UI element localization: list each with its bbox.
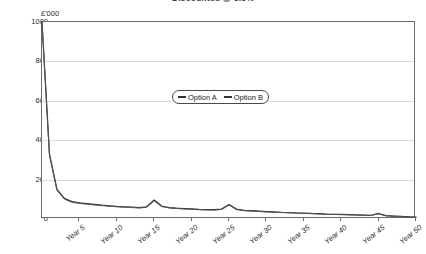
legend-entry[interactable]: Option B <box>224 93 263 102</box>
x-axis-tick <box>228 218 229 221</box>
series-line <box>42 22 416 217</box>
x-axis-tick <box>415 218 416 221</box>
legend-label: Option B <box>234 93 263 102</box>
x-axis-tick-label: Year 20 <box>173 223 199 246</box>
x-axis-tick-label: Year 35 <box>285 223 311 246</box>
legend-entry[interactable]: Option A <box>178 93 217 102</box>
series-line <box>42 22 416 217</box>
x-axis-tick <box>153 218 154 221</box>
chart-title: Discounted @ 3.5% <box>0 0 426 2</box>
x-axis-tick-label: Year 30 <box>248 223 274 246</box>
x-axis-tick <box>116 218 117 221</box>
chart-container: Discounted @ 3.5% £'000 0200400600800100… <box>0 0 426 254</box>
chart-legend: Option AOption B <box>172 90 269 104</box>
x-axis-tick-label: Year 15 <box>136 223 162 246</box>
x-axis-tick <box>303 218 304 221</box>
series-lines <box>42 22 416 219</box>
x-axis-tick <box>340 218 341 221</box>
plot-area <box>41 21 415 218</box>
legend-line-icon <box>224 96 232 98</box>
x-axis-tick-label: Year 50 <box>398 223 424 246</box>
x-axis-tick <box>78 218 79 221</box>
x-axis-tick-label: Year 45 <box>360 223 386 246</box>
x-axis-tick-label: Year 5 <box>64 223 87 243</box>
x-axis-tick-label: Year 40 <box>323 223 349 246</box>
legend-line-icon <box>178 96 186 98</box>
x-axis-tick <box>265 218 266 221</box>
x-axis-tick <box>378 218 379 221</box>
x-axis-tick <box>191 218 192 221</box>
x-axis-tick-label: Year 10 <box>98 223 124 246</box>
legend-label: Option A <box>188 93 217 102</box>
x-axis-tick-label: Year 25 <box>211 223 237 246</box>
